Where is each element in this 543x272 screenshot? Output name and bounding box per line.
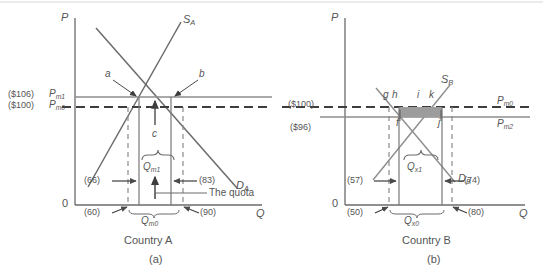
panel-b-price-pm2-label: Pm2 [497,119,513,130]
panel-a-supply-label: SA [183,14,195,26]
panel-a-quota-annotation: The quota [209,188,254,198]
panel-a-arrow-90 [184,207,199,213]
panel-b-point-h: h [392,90,398,100]
panel-b-brace-qx1 [404,150,438,160]
panel-b-point-j: j [438,118,440,128]
panel-b-point-k: k [429,90,434,100]
panel-b-caption-index: (b) [427,254,440,265]
panel-b-price-pm2-value: ($96) [290,123,311,132]
panel-b-axis-label-p: P [331,12,338,23]
panel-a-arrow-60 [112,207,127,213]
panel-a-caption-index: (a) [149,254,162,265]
panel-b-arrow-50 [375,207,388,213]
panel-b-caption-country: Country B [402,235,451,246]
panel-b-tick-74: (74) [464,176,480,185]
panel-a-label-qm0: Qm0 [141,216,158,227]
panel-a-tick-83: (83) [199,176,215,185]
panel-a-caption-country: Country A [124,235,172,246]
panel-a-price-pm0-label: Pm0 [49,100,65,111]
panel-b-origin: 0 [332,198,338,209]
panel-b-point-i: i [417,90,419,100]
panel-b-arrow-80 [453,207,467,213]
panel-b-shaded-region [399,107,442,117]
panel-a-quota-leader [155,193,207,199]
panel-a-axis-label-p: P [61,12,68,23]
panel-a-price-pm0-value: ($100) [8,101,34,110]
panel-b-point-g: g [383,90,389,100]
panel-a-point-a: a [105,69,111,79]
panel-b-tick-50: (50) [347,208,363,217]
panel-a-axis-label-q: Q [256,208,265,219]
panel-b-point-f: f [396,118,399,128]
panel-a-brace-qm1 [142,150,174,160]
diagram-svg [0,0,543,272]
panel-b-label-qx0: Qx0 [404,216,419,227]
panel-b-tick-57: (57) [347,176,363,185]
panel-b-price-pm0-label: Pm0 [497,96,513,107]
panel-a-label-qm1: Qm1 [143,162,160,173]
panel-a-tick-66: (66) [84,176,100,185]
panel-a-tick-60: (60) [84,208,100,217]
panel-a-price-pm1-value: ($106) [8,90,34,99]
panel-a-point-c: c [152,129,157,139]
panel-b-tick-80: (80) [468,208,484,217]
panel-b-supply-label: SB [441,74,453,86]
panel-a-origin: 0 [62,198,68,209]
panel-a-tick-90: (90) [200,208,216,217]
figure-canvas: P Q 0 SA DA ($106) Pm1 ($100) Pm0 a b c … [0,0,543,272]
panel-a-leader-b [175,80,198,96]
panel-b-axis-label-q: Q [519,208,528,219]
panel-a-supply-curve [88,22,181,187]
panel-b-price-pm0-value: ($100) [288,100,314,109]
panel-a-leader-a [113,80,136,96]
panel-b-label-qx1: Qx1 [407,162,422,173]
panel-a-point-b: b [199,69,205,79]
panel-b-group [282,18,530,218]
